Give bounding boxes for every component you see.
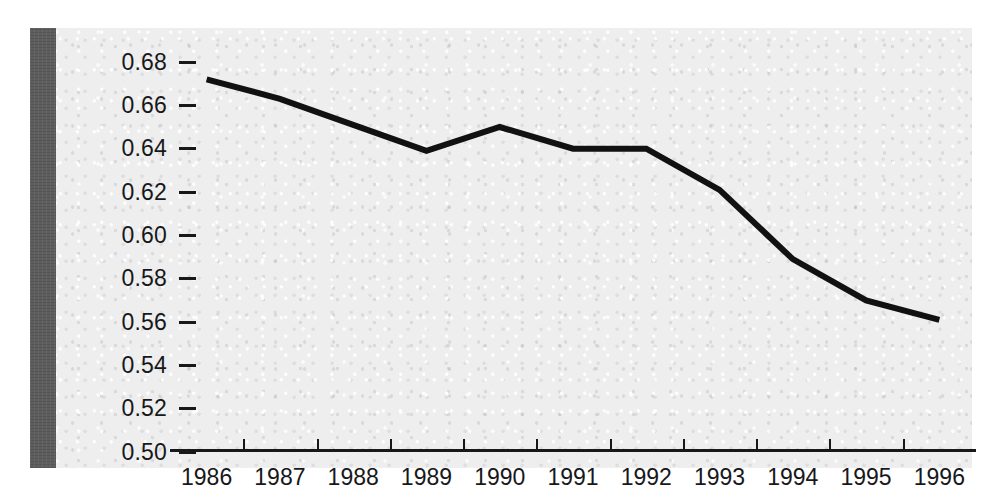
left-gutter-bar: [30, 28, 56, 468]
x-axis-tick-mark: [683, 439, 685, 452]
x-axis-tick-label: 1994: [767, 464, 818, 491]
x-axis-tick-label: 1987: [254, 464, 305, 491]
x-axis-tick-label: 1995: [840, 464, 891, 491]
x-axis-tick-mark: [829, 439, 831, 452]
x-axis-tick-mark: [463, 439, 465, 452]
x-axis-tick-label: 1989: [401, 464, 452, 491]
x-axis-tick-label: 1988: [328, 464, 379, 491]
y-axis-tick-label: 0.52: [121, 397, 167, 420]
x-axis-tick-label: 1996: [914, 464, 965, 491]
y-axis-tick-label: 0.66: [121, 94, 167, 117]
line-series: [170, 62, 976, 452]
y-axis-tick-label: 0.54: [121, 354, 167, 377]
figure-page: 0.680.660.640.620.600.580.560.540.520.50…: [0, 0, 998, 498]
x-axis-tick-mark: [610, 439, 612, 452]
x-axis-tick-mark: [536, 439, 538, 452]
y-axis-tick-label: 0.50: [121, 441, 167, 464]
x-axis-tick-label: 1986: [181, 464, 232, 491]
x-axis-tick-mark: [243, 439, 245, 452]
x-axis-line: [170, 449, 976, 452]
chart-panel: 0.680.660.640.620.600.580.560.540.520.50…: [30, 28, 972, 468]
y-axis-tick-label: 0.64: [121, 137, 167, 160]
y-axis-tick-label: 0.68: [121, 51, 167, 74]
y-axis-tick-label: 0.56: [121, 311, 167, 334]
x-axis-tick-label: 1991: [547, 464, 598, 491]
x-axis-tick-label: 1993: [694, 464, 745, 491]
x-axis-tick-mark: [903, 439, 905, 452]
x-axis-tick-label: 1992: [621, 464, 672, 491]
series-polyline: [207, 79, 940, 319]
x-axis-tick-mark: [756, 439, 758, 452]
plot-area: 0.680.660.640.620.600.580.560.540.520.50…: [170, 62, 976, 452]
y-axis-tick-label: 0.62: [121, 181, 167, 204]
x-axis-tick-mark: [390, 439, 392, 452]
x-axis-tick-mark: [317, 439, 319, 452]
x-axis-tick-label: 1990: [474, 464, 525, 491]
y-axis-tick-label: 0.58: [121, 267, 167, 290]
y-axis-tick-label: 0.60: [121, 224, 167, 247]
